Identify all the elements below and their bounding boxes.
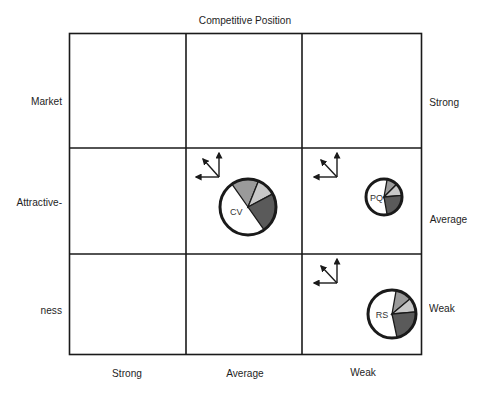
- pie-label: RS: [376, 310, 389, 320]
- pie-label: CV: [230, 207, 243, 217]
- pie-chart-rs: RS: [368, 290, 416, 338]
- pie-chart-pq: PQ: [366, 179, 402, 215]
- direction-arrows-rs: [314, 259, 337, 283]
- direction-arrows-cv: [196, 153, 219, 177]
- matrix-diagram: CV PQ RS: [0, 0, 479, 398]
- pie-chart-cv: CV: [220, 179, 276, 235]
- direction-arrows-pq: [314, 153, 337, 177]
- pie-label: PQ: [370, 193, 383, 203]
